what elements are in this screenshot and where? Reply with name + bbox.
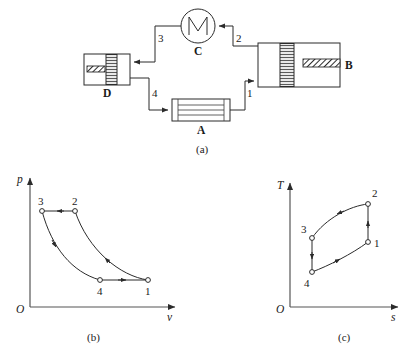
stream-2-label: 2	[236, 32, 242, 44]
stream-3-line: 3	[134, 26, 181, 62]
chart-c-point-3	[310, 236, 315, 241]
chart-b-pv-diagram: p v O 1 2 3 4 (b)	[16, 173, 175, 344]
component-c-label: C	[194, 45, 202, 57]
caption-a: (a)	[196, 143, 209, 156]
chart-c-process-2-3	[312, 204, 368, 238]
stream-4-line: 4	[130, 78, 168, 110]
chart-b-point-2	[73, 209, 78, 214]
stream-3-label: 3	[158, 32, 164, 44]
component-b-piston-cylinder: B	[258, 43, 353, 87]
chart-b-point-3	[40, 209, 45, 214]
chart-b-process-1-2	[75, 211, 148, 280]
chart-b-origin-label: O	[16, 303, 25, 315]
caption-b: (b)	[87, 331, 100, 344]
chart-b-process-3-4	[42, 211, 100, 280]
chart-b-y-axis-label: p	[16, 173, 23, 186]
component-c-turbine: C	[181, 9, 215, 57]
chart-c-point-1	[366, 240, 371, 245]
chart-b-point-2-label: 2	[72, 195, 78, 207]
component-b-label: B	[345, 59, 353, 71]
chart-b-point-1-label: 1	[145, 285, 151, 297]
component-a-heat-exchanger: A	[172, 99, 230, 136]
stream-2-line: 2	[219, 26, 258, 46]
chart-c-origin-label: O	[276, 303, 285, 315]
chart-c-ts-diagram: T s O 1 2 3 4 (c)	[276, 179, 398, 344]
component-d-label: D	[103, 87, 111, 99]
technical-figure: C B D	[0, 0, 412, 354]
chart-b-point-4	[98, 278, 103, 283]
stream-1-line: 1	[230, 81, 254, 110]
chart-c-process-4-1	[312, 242, 368, 272]
stream-1-label: 1	[247, 87, 253, 99]
component-d-piston-cylinder: D	[84, 54, 130, 99]
chart-c-y-axis-label: T	[277, 179, 285, 191]
chart-c-point-4	[310, 270, 315, 275]
chart-c-point-1-label: 1	[374, 237, 380, 249]
chart-c-point-2-label: 2	[372, 187, 378, 199]
chart-c-point-3-label: 3	[301, 223, 307, 235]
chart-c-x-axis-label: s	[391, 311, 396, 323]
chart-c-point-4-label: 4	[304, 277, 310, 289]
chart-b-point-4-label: 4	[97, 285, 103, 297]
chart-b-point-1	[146, 278, 151, 283]
chart-c-point-2	[366, 202, 371, 207]
figure-root: C B D	[0, 0, 412, 354]
stream-4-label: 4	[152, 87, 158, 99]
chart-b-x-axis-label: v	[167, 311, 173, 323]
chart-b-point-3-label: 3	[38, 195, 44, 207]
schematic-diagram-a: C B D	[84, 9, 353, 156]
caption-c: (c)	[338, 331, 351, 344]
component-a-label: A	[197, 124, 206, 136]
